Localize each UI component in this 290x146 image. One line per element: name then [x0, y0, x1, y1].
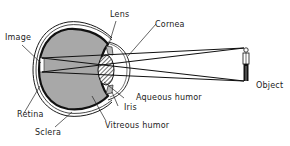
label-sclera: Sclera	[35, 129, 61, 137]
label-aqueous-humor: Aqueous humor	[136, 94, 202, 102]
label-object: Object	[256, 82, 283, 90]
retina-image-mark	[40, 58, 44, 72]
label-cornea: Cornea	[155, 21, 185, 29]
label-iris: Iris	[124, 104, 137, 112]
label-image: Image	[5, 34, 31, 42]
label-lens: Lens	[110, 11, 129, 19]
lens-shape	[98, 55, 114, 85]
label-retina: Retina	[17, 111, 44, 119]
label-vitreous-humor: Vitreous humor	[105, 122, 169, 130]
object-person-figure	[243, 48, 249, 81]
